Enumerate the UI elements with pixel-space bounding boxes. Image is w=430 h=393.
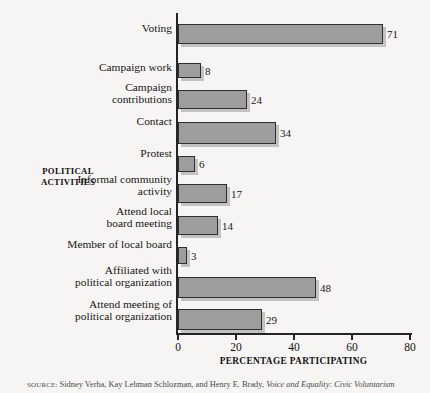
category-label: Member of local board [12,239,172,251]
bar-value-label: 48 [320,283,331,294]
source-note-text: Sidney Verba, Kay Lehman Schlozman, and … [58,380,267,389]
bar-value-label: 24 [251,95,262,106]
plot-area: 71 8 24 34 6 17 [178,14,409,332]
bar-campaign-work[interactable] [178,63,201,78]
category-label: Campaign work [12,62,172,74]
bar-attend-meeting-of-political-organization[interactable] [178,309,262,330]
x-tick-mark [409,335,411,340]
x-tick-mark [235,335,237,340]
x-tick-label: 80 [404,341,416,353]
y-axis-title: POLITICAL ACTIVITIES [22,166,114,187]
category-label: Voting [12,23,172,35]
category-label: Affiliated with political organization [12,265,172,289]
bar-value-label: 14 [222,221,233,232]
source-note-label: SOURCE: [27,381,58,388]
bar-contact[interactable] [178,122,276,144]
bar-protest[interactable] [178,156,195,172]
bar-member-of-local-board[interactable] [178,247,187,264]
bar-attend-local-board-meeting[interactable] [178,216,218,235]
source-note: SOURCE: Sidney Verba, Kay Lehman Schlozm… [27,380,427,390]
bar-value-label: 17 [231,189,242,200]
x-tick-label: 40 [288,341,300,353]
source-note-title: Voice and Equality: Civic Voluntarism [266,380,394,389]
x-tick-label: 0 [175,341,181,353]
bar-voting[interactable] [178,24,383,44]
bar-value-label: 71 [387,29,398,40]
bar-value-label: 3 [191,251,197,262]
category-label: Contact [12,116,172,128]
x-axis-title: PERCENTAGE PARTICIPATING [178,356,409,366]
category-label: Attend local board meeting [12,206,172,230]
bar-value-label: 8 [205,66,211,77]
bar-chart-figure: Voting Campaign work Campaign contributi… [0,0,430,393]
category-label: Attend meeting of political organization [12,299,172,323]
x-tick-label: 20 [230,341,242,353]
x-tick-mark [177,335,179,340]
bar-affiliated-with-political-organization[interactable] [178,277,316,298]
x-tick-mark [351,335,353,340]
bar-value-label: 6 [199,159,205,170]
bar-value-label: 34 [280,128,291,139]
bar-informal-community-activity[interactable] [178,184,227,203]
category-label: Campaign contributions [12,82,172,106]
bar-campaign-contributions[interactable] [178,90,247,109]
category-label-column: Voting Campaign work Campaign contributi… [8,0,172,318]
x-tick-label: 60 [346,341,358,353]
x-tick-mark [293,335,295,340]
category-label: Protest [12,148,172,160]
bar-value-label: 29 [266,315,277,326]
